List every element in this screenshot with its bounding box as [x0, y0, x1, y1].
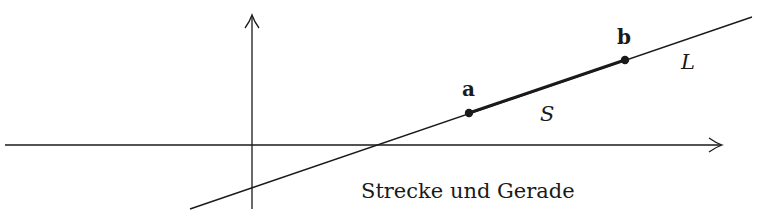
caption: Strecke und Gerade: [361, 179, 575, 203]
point-a-label: a: [462, 77, 475, 101]
point-b: [621, 56, 629, 64]
point-a: [465, 109, 473, 117]
point-b-label: b: [617, 25, 631, 49]
diagram-svg: a b S L Strecke und Gerade: [0, 0, 763, 215]
diagram-canvas: a b S L Strecke und Gerade: [0, 0, 763, 215]
y-axis: [245, 15, 259, 209]
segment-S-label: S: [540, 102, 554, 126]
line-L-label: L: [680, 50, 695, 74]
